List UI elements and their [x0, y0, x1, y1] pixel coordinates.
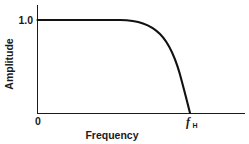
- y-axis-title: Amplitude: [3, 38, 15, 89]
- y-tick-label-1-0: 1.0: [18, 14, 33, 26]
- amplitude-response-curve: [38, 20, 191, 113]
- plot-area: 1.0 0 f H Frequency Amplitude: [0, 0, 249, 144]
- cutoff-frequency-subscript-label: H: [193, 122, 198, 129]
- x-tick-label-zero: 0: [35, 115, 41, 127]
- x-axis-title: Frequency: [85, 129, 138, 141]
- cutoff-frequency-f-label: f: [186, 115, 191, 129]
- amplitude-frequency-response-figure: 1.0 0 f H Frequency Amplitude: [0, 0, 249, 144]
